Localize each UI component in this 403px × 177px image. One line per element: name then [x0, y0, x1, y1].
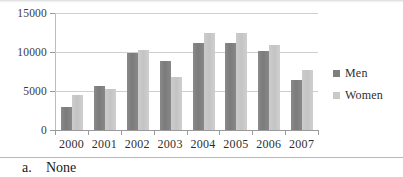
bar-women-2007: [302, 70, 313, 130]
legend-swatch-women-icon: [333, 92, 340, 99]
plot-area: [55, 13, 318, 130]
bar-group-2003: [154, 13, 187, 130]
bar-group-2006: [252, 13, 285, 130]
bar-group-2002: [121, 13, 154, 130]
bar-women-2005: [236, 33, 247, 130]
bar-women-2003: [171, 77, 182, 130]
legend-swatch-men-icon: [333, 70, 340, 77]
x-axis-label-2005: 2005: [219, 137, 252, 152]
x-axis-tick-mark-5: [219, 131, 220, 135]
legend-item-men: Men: [333, 62, 403, 84]
x-axis-tick-mark-3: [154, 131, 155, 135]
legend-item-women: Women: [333, 84, 403, 106]
bar-men-2004: [193, 43, 204, 130]
y-axis-tick-label-0: 0: [41, 125, 47, 136]
x-axis-tick-mark-1: [88, 131, 89, 135]
bar-men-2006: [258, 51, 269, 130]
bar-men-2005: [225, 43, 236, 130]
x-axis-label-2007: 2007: [285, 137, 318, 152]
bar-group-2000: [55, 13, 88, 130]
caption-text: None: [46, 160, 76, 176]
bar-women-2006: [269, 45, 280, 130]
bar-group-2007: [285, 13, 318, 130]
bar-men-2003: [160, 61, 171, 130]
figure-bottom-rule: [0, 157, 403, 158]
x-axis-tick-mark-2: [121, 131, 122, 135]
y-axis-tick-label-5000: 5000: [23, 86, 47, 97]
x-axis-tick-mark-4: [187, 131, 188, 135]
x-axis-label-2004: 2004: [187, 137, 220, 152]
x-axis-tick-mark-7: [285, 131, 286, 135]
x-axis-label-2001: 2001: [88, 137, 121, 152]
bar-women-2000: [72, 95, 83, 130]
bar-men-2002: [127, 53, 138, 130]
caption-list-marker: a.: [22, 160, 32, 176]
bar-chart-figure: 15000 10000 5000 0: [0, 0, 403, 157]
x-axis-label-2006: 2006: [252, 137, 285, 152]
legend-label-women: Women: [345, 88, 383, 103]
x-axis-label-2000: 2000: [55, 137, 88, 152]
x-axis-label-2003: 2003: [154, 137, 187, 152]
bar-women-2002: [138, 50, 149, 130]
x-axis-tick-mark-0: [55, 131, 56, 135]
bar-group-2004: [187, 13, 220, 130]
bar-women-2001: [105, 89, 116, 130]
x-axis-tick-mark-6: [252, 131, 253, 135]
bar-men-2007: [291, 80, 302, 130]
bar-group-2005: [219, 13, 252, 130]
bar-women-2004: [204, 33, 215, 130]
bar-men-2001: [94, 86, 105, 130]
legend-label-men: Men: [345, 66, 368, 81]
caption-clipped-region: a. None: [0, 160, 403, 177]
x-axis-tick-mark-8: [318, 131, 319, 135]
bar-men-2000: [61, 107, 72, 130]
y-axis-tick-label-10000: 10000: [17, 47, 47, 58]
y-axis-tick-label-15000: 15000: [17, 8, 47, 19]
chart-legend: Men Women: [333, 62, 403, 106]
x-axis-label-2002: 2002: [121, 137, 154, 152]
bar-group-2001: [88, 13, 121, 130]
